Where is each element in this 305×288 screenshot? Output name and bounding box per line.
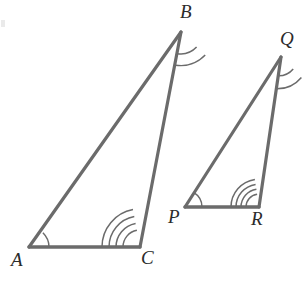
vertex-label-Q: Q	[280, 29, 294, 48]
angle-arc-B	[176, 47, 206, 65]
vertex-label-A: A	[11, 250, 23, 269]
angle-arc-A	[43, 233, 49, 247]
scan-edge-mark	[1, 20, 5, 27]
angle-arc-R	[231, 179, 257, 207]
angle-arc-C	[102, 210, 137, 247]
side-AB	[29, 32, 181, 247]
vertex-label-R: R	[251, 209, 263, 228]
side-PQ	[185, 57, 281, 207]
side-QR	[259, 57, 281, 207]
geometry-figure: A B C P Q R	[0, 0, 305, 288]
angle-arc-P	[194, 193, 202, 207]
vertex-label-C: C	[141, 248, 154, 267]
vertex-label-B: B	[180, 2, 192, 21]
triangle-pqr-group	[185, 57, 301, 207]
vertex-label-P: P	[168, 207, 180, 226]
geometry-canvas	[0, 0, 305, 288]
